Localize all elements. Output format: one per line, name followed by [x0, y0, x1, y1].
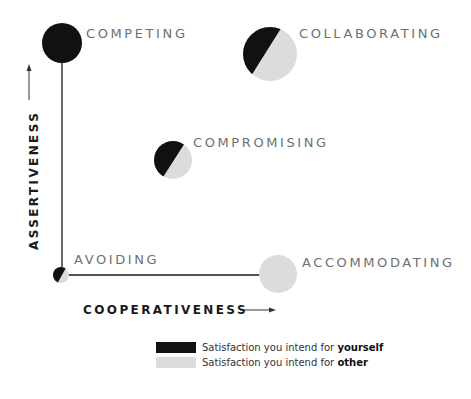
legend-item-other: Satisfaction you intend for other	[156, 355, 383, 370]
legend: Satisfaction you intend for yourself Sat…	[156, 340, 383, 370]
collaborating-circle	[230, 14, 297, 84]
accommodating-label: ACCOMMODATING	[302, 256, 455, 269]
self-swatch-icon	[156, 342, 196, 353]
collaborating-label: COLLABORATING	[299, 27, 443, 40]
competing-label: COMPETING	[86, 27, 188, 40]
assertiveness-arrow-icon	[27, 64, 32, 100]
avoiding-label: AVOIDING	[74, 253, 159, 266]
avoiding-circle	[50, 264, 69, 286]
competing-circle	[42, 23, 82, 63]
other-swatch-icon	[156, 357, 196, 368]
conflict-modes-diagram: COMPETING COLLABORATING COMPROMISING AVO…	[0, 0, 471, 399]
legend-self-text: Satisfaction you intend for yourself	[202, 342, 383, 353]
compromising-label: COMPROMISING	[193, 136, 329, 149]
legend-item-self: Satisfaction you intend for yourself	[156, 340, 383, 355]
accommodating-circle	[259, 255, 297, 293]
legend-other-text: Satisfaction you intend for other	[202, 357, 368, 368]
compromising-circle	[150, 135, 192, 185]
cooperativeness-axis-label: COOPERATIVENESS	[83, 304, 248, 316]
assertiveness-axis-label: ASSERTIVENESS	[28, 111, 40, 250]
